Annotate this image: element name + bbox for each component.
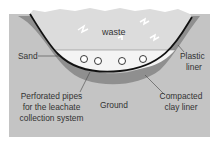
pipe-1 — [81, 56, 88, 63]
label-pipes-1: Perforated pipes — [14, 92, 89, 101]
label-ground: Ground — [100, 101, 128, 110]
pipe-3 — [119, 58, 126, 65]
label-clay-2: clay liner — [156, 103, 206, 112]
label-pipes-2: for the leachate — [14, 103, 89, 112]
pipe-2 — [95, 58, 102, 65]
label-plastic-liner-2: liner — [186, 63, 202, 72]
label-waste: waste — [102, 28, 126, 37]
pipe-4 — [140, 56, 147, 63]
label-sand: Sand — [18, 52, 38, 61]
label-plastic-liner-1: Plastic — [180, 52, 205, 61]
label-clay-1: Compacted — [156, 92, 206, 101]
label-pipes-3: collection system — [14, 114, 89, 123]
